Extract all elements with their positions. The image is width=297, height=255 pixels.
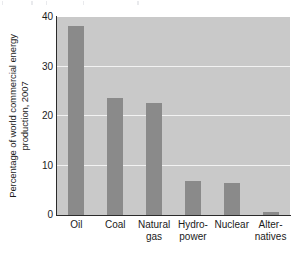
x-tick-label: Nuclear [212,219,251,231]
x-tick-label-line1: Natural [138,219,170,230]
y-axis-label-line1: Percentage of world commercial energy [7,34,18,198]
y-tick-label: 30 [31,62,53,72]
bar-series [57,17,290,215]
y-tick-label: 10 [31,161,53,171]
bar [185,181,201,215]
x-tick-label-line2: gas [135,231,174,243]
x-axis-line [56,215,291,216]
plot-area [57,17,290,215]
x-tick-label: Alter-natives [251,219,290,243]
x-tick-label-line1: Hydro- [178,219,208,230]
y-tick-label: 20 [31,111,53,121]
y-axis-label-line2: production, 2007 [18,34,30,198]
x-tick-label-line1: Coal [105,219,126,230]
y-axis-tick-labels: 010203040 [31,0,53,255]
x-tick-label: Hydro-power [174,219,213,243]
x-tick-label-line1: Oil [70,219,82,230]
bar [107,98,123,215]
x-axis-tick-labels: OilCoalNaturalgasHydro-powerNuclearAlter… [57,219,290,253]
bar [68,26,84,215]
x-tick-label-line1: Alter- [259,219,283,230]
bar [224,183,240,215]
x-tick-label: Naturalgas [135,219,174,243]
x-tick-label: Oil [57,219,96,231]
x-tick-label: Coal [96,219,135,231]
y-tick-label: 0 [31,210,53,220]
x-tick-label-line2: power [174,231,213,243]
bar [146,103,162,215]
y-tick-label: 40 [31,12,53,22]
y-axis-label: Percentage of world commercial energy pr… [6,17,30,215]
x-tick-label-line1: Nuclear [215,219,249,230]
x-tick-label-line2: natives [251,231,290,243]
y-axis-line [56,16,57,216]
bar-chart-figure: Percentage of world commercial energy pr… [0,0,297,255]
